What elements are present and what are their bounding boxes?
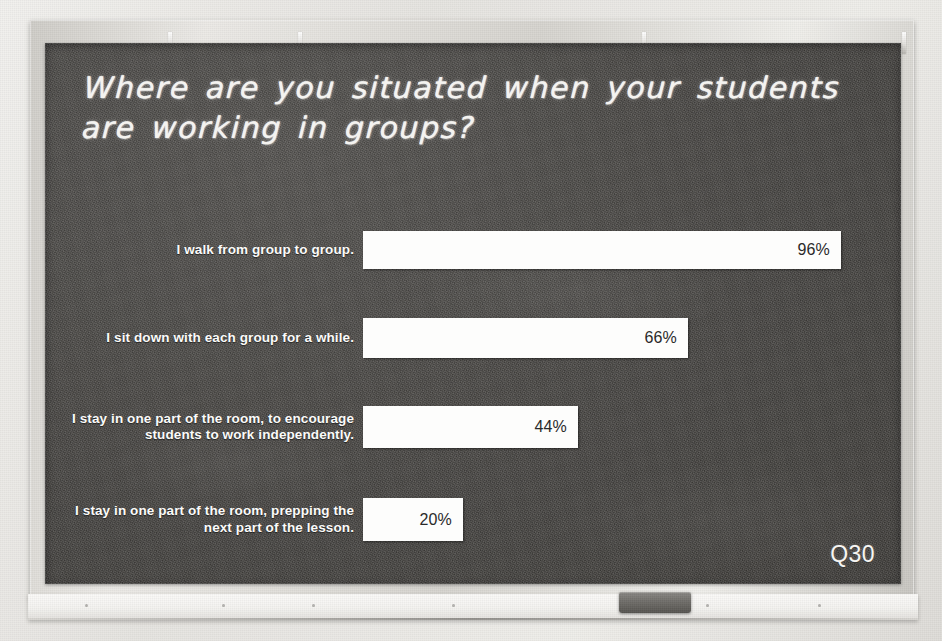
chalkboard-surface: Where are you situated when your student… (45, 43, 901, 584)
tray-speck (222, 604, 225, 607)
bar-category-label: I stay in one part of the room, prepping… (45, 503, 363, 536)
bar-0: 96% (363, 231, 841, 269)
bar-track: 96% (363, 231, 901, 269)
frame-clip-4 (902, 32, 906, 54)
bar-value-label: 66% (644, 329, 677, 347)
bar-value-label: 44% (534, 418, 567, 436)
bar-value-label: 96% (797, 241, 830, 259)
tray-speck (312, 604, 315, 607)
tray-shadow-line (28, 618, 918, 620)
bar-3: 20% (363, 498, 463, 541)
question-number-tag: Q30 (830, 541, 875, 568)
bar-value-label: 20% (419, 511, 452, 529)
chart-row: I stay in one part of the room, to encou… (45, 406, 901, 448)
bar-track: 44% (363, 406, 901, 448)
bar-category-label: I sit down with each group for a while. (45, 330, 363, 346)
chart-row: I stay in one part of the room, prepping… (45, 498, 901, 541)
chart-row: I walk from group to group. 96% (45, 231, 901, 269)
bar-chart: I walk from group to group. 96% I sit do… (45, 193, 901, 523)
chart-row: I sit down with each group for a while. … (45, 318, 901, 358)
chalk-tray (28, 594, 918, 620)
slide-title: Where are you situated when your student… (81, 68, 875, 148)
bar-track: 20% (363, 498, 901, 541)
tray-speck (818, 604, 821, 607)
tray-speck (706, 604, 709, 607)
chalkboard-frame: Where are you situated when your student… (30, 20, 914, 598)
photo-background: Where are you situated when your student… (0, 0, 942, 641)
bar-category-label: I walk from group to group. (45, 242, 363, 258)
board-eraser (619, 592, 691, 613)
bar-2: 44% (363, 406, 578, 448)
bar-1: 66% (363, 318, 688, 358)
bar-track: 66% (363, 318, 901, 358)
bar-category-label: I stay in one part of the room, to encou… (45, 411, 363, 444)
tray-speck (452, 604, 455, 607)
tray-speck (85, 604, 88, 607)
